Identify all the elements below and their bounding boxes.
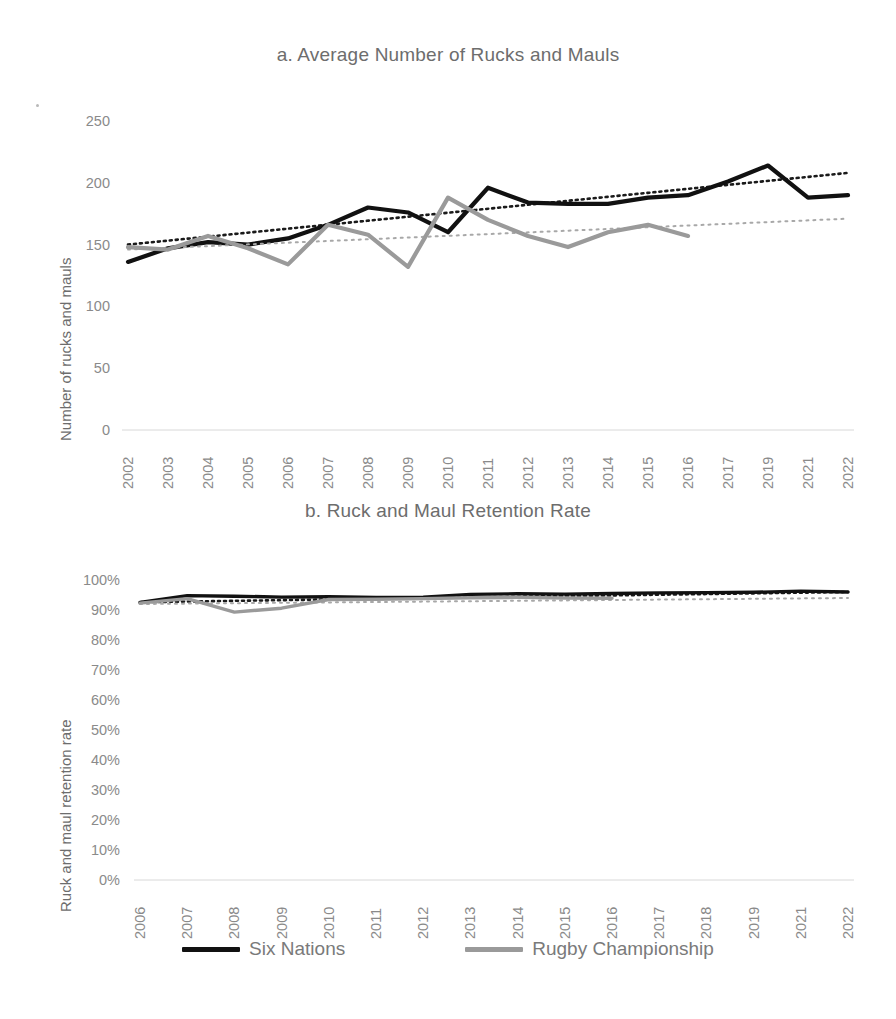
chart-b-xtick: 2015 [557, 897, 573, 939]
chart-a-xtick: 2005 [240, 447, 256, 489]
chart-b-xtick: 2019 [746, 897, 762, 939]
chart-a-xtick: 2012 [520, 447, 536, 489]
chart-b-xtick: 2018 [698, 897, 714, 939]
chart-b-xtick: 2022 [840, 897, 856, 939]
chart-a-xtick: 2019 [760, 447, 776, 489]
chart-a-series-svg [0, 66, 896, 486]
chart-a-xtick: 2002 [120, 447, 136, 489]
chart-b-line-rugby-championship [140, 597, 612, 612]
chart-a-xtick: 2009 [400, 447, 416, 489]
chart-b-series-svg [0, 522, 896, 942]
chart-a-trendline [128, 173, 848, 245]
chart-a-xtick: 2003 [160, 447, 176, 489]
chart-a-plot: Number of rucks and mauls 05010015020025… [0, 66, 896, 486]
chart-b-xtick: 2006 [132, 897, 148, 939]
chart-a-xtick: 2010 [440, 447, 456, 489]
chart-b-xtick: 2007 [179, 897, 195, 939]
legend-label-rugby-championship: Rugby Championship [532, 938, 714, 960]
legend-item-six-nations: Six Nations [182, 938, 345, 960]
chart-b-plot: Ruck and maul retention rate 0%10%20%30%… [0, 522, 896, 942]
legend-label-six-nations: Six Nations [249, 938, 345, 960]
chart-a-xtick: 2008 [360, 447, 376, 489]
chart-b-xtick: 2016 [604, 897, 620, 939]
chart-b-xtick: 2011 [368, 897, 384, 939]
chart-b-xtick: 2012 [415, 897, 431, 939]
figure-page: a. Average Number of Rucks and Mauls Num… [0, 0, 896, 1019]
chart-a-block: a. Average Number of Rucks and Mauls Num… [0, 44, 896, 486]
chart-a-xtick: 2006 [280, 447, 296, 489]
chart-a-xtick: 2016 [680, 447, 696, 489]
chart-a-xtick: 2015 [640, 447, 656, 489]
legend-item-rugby-championship: Rugby Championship [465, 938, 714, 960]
chart-a-line-six-nations [128, 165, 848, 261]
chart-a-xtick: 2017 [720, 447, 736, 489]
chart-a-xtick: 2011 [480, 447, 496, 489]
legend-swatch-rugby-championship [465, 947, 523, 952]
chart-b-xtick: 2008 [226, 897, 242, 939]
chart-a-xtick: 2014 [600, 447, 616, 489]
chart-a-xtick: 2007 [320, 447, 336, 489]
chart-b-title: b. Ruck and Maul Retention Rate [0, 500, 896, 522]
chart-b-xtick: 2009 [274, 897, 290, 939]
chart-b-xtick: 2014 [510, 897, 526, 939]
chart-b-xtick: 2021 [793, 897, 809, 939]
chart-b-block: b. Ruck and Maul Retention Rate Ruck and… [0, 500, 896, 942]
chart-a-xtick: 2013 [560, 447, 576, 489]
chart-a-xtick: 2022 [840, 447, 856, 489]
chart-b-xtick: 2017 [651, 897, 667, 939]
chart-a-xtick: 2021 [800, 447, 816, 489]
chart-b-xtick: 2013 [462, 897, 478, 939]
chart-a-title: a. Average Number of Rucks and Mauls [0, 44, 896, 66]
chart-b-xtick: 2010 [321, 897, 337, 939]
chart-legend: Six Nations Rugby Championship [0, 938, 896, 960]
chart-a-xtick: 2004 [200, 447, 216, 489]
chart-a-line-rugby-championship [128, 198, 688, 267]
legend-swatch-six-nations [182, 947, 240, 952]
